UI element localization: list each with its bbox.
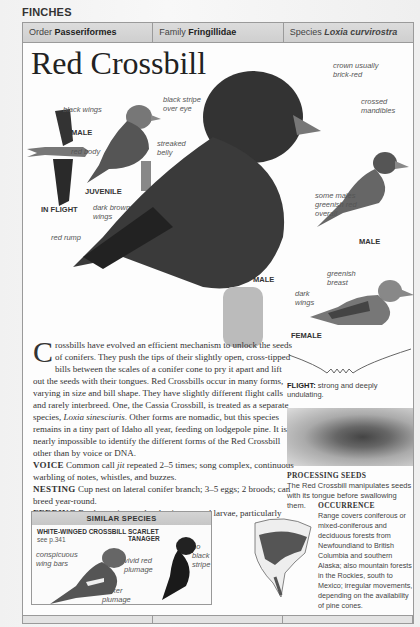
label-black-stripe: black stripe over eye bbox=[163, 95, 213, 113]
similar-species-heading: SIMILAR SPECIES bbox=[32, 512, 211, 525]
white-winged-crossbill-illustration bbox=[46, 546, 146, 604]
scarlet-tanager-illustration bbox=[152, 536, 202, 604]
species-card: Order Passeriformes Family Fringillidae … bbox=[22, 22, 414, 624]
label-crown: crown usually brick-red bbox=[333, 61, 383, 79]
label-some-males: some males greenish red overall bbox=[315, 191, 363, 218]
similar-species-1-name: WHITE-WINGED CROSSBILL bbox=[37, 528, 126, 535]
taxonomy-species: Species Loxia curvirostra bbox=[284, 23, 413, 42]
processing-seeds-photo bbox=[287, 408, 413, 466]
taxonomy-bar: Order Passeriformes Family Fringillidae … bbox=[23, 23, 413, 43]
caption-male-main: MALE bbox=[253, 275, 274, 284]
flight-caption: FLIGHT: strong and deeply undulating. bbox=[287, 381, 413, 399]
range-map bbox=[245, 513, 317, 605]
label-dark-wings: dark wings bbox=[295, 289, 321, 307]
flight-pattern-diagram bbox=[287, 345, 415, 379]
voice-label: VOICE bbox=[33, 460, 64, 470]
occurrence-text: Range covers coniferous or mixed-conifer… bbox=[318, 511, 414, 611]
nesting-label: NESTING bbox=[33, 484, 76, 494]
taxonomy-order: Order Passeriformes bbox=[23, 23, 153, 42]
taxonomy-family: Family Fringillidae bbox=[153, 23, 283, 42]
label-crossed-mandibles: crossed mandibles bbox=[361, 97, 401, 115]
label-vivid-red: vivid red plumage bbox=[124, 556, 154, 574]
bottom-bar bbox=[23, 615, 413, 623]
label-red-rump: red rump bbox=[51, 233, 81, 242]
caption-female: FEMALE bbox=[291, 331, 322, 340]
similar-species-1-ref: see p.341 bbox=[37, 536, 66, 543]
caption-male-right: MALE bbox=[359, 237, 380, 246]
species-description: Crossbills have evolved an efficient mec… bbox=[33, 339, 295, 531]
similar-species-box: SIMILAR SPECIES WHITE-WINGED CROSSBILL s… bbox=[31, 511, 212, 605]
female-illustration bbox=[308, 277, 418, 337]
drop-cap: C bbox=[33, 340, 53, 364]
label-greenish-breast: greenish breast bbox=[327, 269, 357, 287]
processing-title: PROCESSING SEEDS bbox=[287, 471, 366, 480]
section-tag: FINCHES bbox=[22, 6, 72, 18]
occurrence-title: OCCURRENCE bbox=[318, 501, 375, 510]
